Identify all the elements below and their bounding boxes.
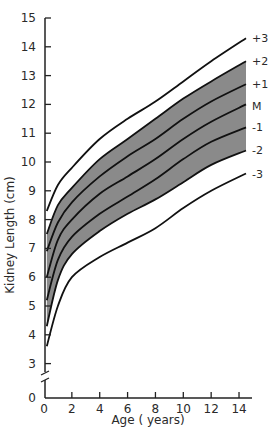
y-tick-label: 15 [21, 11, 36, 25]
y-tick-label: 10 [21, 155, 36, 169]
y-tick-label: 0 [28, 391, 36, 405]
y-axis-title: Kidney Length (cm) [3, 176, 17, 294]
series-label: M [252, 100, 262, 113]
shaded-band [47, 61, 246, 326]
x-tick-label: 2 [68, 402, 76, 416]
y-tick-label: 12 [21, 97, 36, 111]
x-axis-title: Age ( years) [111, 413, 184, 427]
y-tick-label: 7 [28, 241, 36, 255]
x-tick-label: 14 [231, 402, 246, 416]
y-tick-label: 4 [28, 328, 36, 342]
series-label: +3 [252, 32, 268, 45]
y-tick-label: 11 [21, 126, 36, 140]
series-label: +1 [252, 78, 268, 91]
y-tick-label: 8 [28, 213, 36, 227]
y-tick-label: 13 [21, 69, 36, 83]
normal-range-band [47, 61, 246, 326]
kidney-length-chart: 03456789101112131415 02468101214 +3+2+1M… [0, 0, 276, 430]
y-tick-label: 6 [28, 270, 36, 284]
y-axis-break-mark [41, 371, 49, 382]
series-label: -2 [252, 144, 263, 157]
series-labels: +3+2+1M-1-2-3 [252, 32, 268, 180]
y-tick-label: 9 [28, 184, 36, 198]
x-tick-label: 0 [40, 402, 48, 416]
series-label: +2 [252, 55, 268, 68]
x-tick-label: 12 [204, 402, 219, 416]
y-tick-label: 14 [21, 40, 36, 54]
y-tick-label: 5 [28, 299, 36, 313]
series-label: -3 [252, 168, 263, 181]
x-tick-label: 4 [96, 402, 104, 416]
series-label: -1 [252, 121, 263, 134]
y-tick-label: 3 [28, 357, 36, 371]
